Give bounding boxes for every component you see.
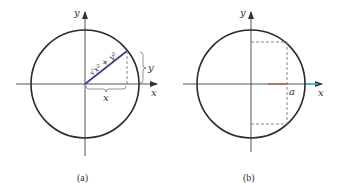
- caption-a: (a): [77, 172, 88, 183]
- radius-label: √x² + y²: [88, 51, 119, 78]
- segment-y-label: y: [147, 62, 154, 73]
- panel-b: y x a (b): [183, 7, 324, 183]
- caption-b: (b): [243, 172, 255, 183]
- panel-a: y x x y √x² + y² (a): [16, 7, 157, 183]
- brace-y: [140, 52, 146, 83]
- x-axis-label: x: [151, 87, 157, 98]
- point-a-label: a: [289, 86, 295, 97]
- figure: y x x y √x² + y² (a) y x a (b): [0, 0, 340, 183]
- y-axis-label: y: [73, 7, 80, 18]
- x-axis-label: x: [318, 87, 324, 98]
- segment-x-label: x: [103, 92, 109, 103]
- y-axis-label: y: [239, 7, 246, 18]
